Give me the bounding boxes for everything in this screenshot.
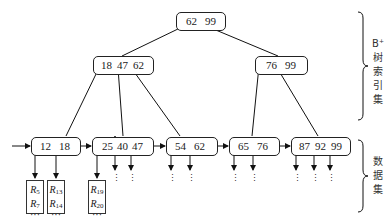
leaf-key: 76 bbox=[257, 138, 268, 155]
leaf-key: 62 bbox=[194, 138, 205, 155]
leaf-key: 25 bbox=[102, 138, 113, 155]
leaf-key: 87 bbox=[299, 138, 310, 155]
label-char: 树 bbox=[372, 51, 384, 65]
record-label: R bbox=[90, 218, 96, 220]
leaf-node: 54 62 bbox=[166, 137, 218, 156]
index-set-label: B+ 树 索 引 集 bbox=[372, 34, 384, 107]
vertical-ellipsis: ⋮ bbox=[128, 176, 134, 181]
root-key: 99 bbox=[205, 13, 216, 30]
root-key: 62 bbox=[186, 13, 197, 30]
leaf-key: 99 bbox=[331, 138, 342, 155]
internal-node-left: 18 47 62 bbox=[93, 56, 154, 75]
data-block: R5 R7 ··· R12 bbox=[26, 180, 44, 214]
vertical-ellipsis: ⋮ bbox=[250, 176, 256, 181]
record-label: R bbox=[28, 218, 34, 220]
leaf-node: 25 40 47 bbox=[92, 137, 154, 156]
vertical-ellipsis: ⋮ bbox=[311, 176, 317, 181]
record-subscript: 5 bbox=[36, 188, 40, 196]
label-char: B bbox=[372, 38, 379, 49]
leaf-key: 54 bbox=[175, 138, 186, 155]
root-node: 62 99 bbox=[176, 12, 226, 31]
vertical-ellipsis: ⋮ bbox=[168, 176, 174, 181]
vertical-ellipsis: ⋮ bbox=[112, 176, 118, 181]
vertical-ellipsis: ⋮ bbox=[293, 176, 299, 181]
leaf-key: 92 bbox=[315, 138, 326, 155]
leaf-key: 47 bbox=[132, 138, 143, 155]
leaf-key: 40 bbox=[117, 138, 128, 155]
leaf-key: 65 bbox=[238, 138, 249, 155]
internal-key: 18 bbox=[101, 57, 112, 74]
record-subscript: 13 bbox=[56, 188, 63, 196]
b-plus-tree-diagram: 62 99 18 47 62 76 99 12 18 25 40 47 54 6… bbox=[0, 0, 390, 220]
vertical-ellipsis: ⋮ bbox=[187, 176, 193, 181]
record-subscript: 19 bbox=[97, 188, 104, 196]
leaf-node: 12 18 bbox=[31, 137, 81, 156]
vertical-ellipsis: ⋮ bbox=[231, 176, 237, 181]
internal-key: 99 bbox=[285, 57, 296, 74]
leaf-node: 87 92 99 bbox=[291, 137, 351, 156]
label-char: 集 bbox=[372, 93, 384, 107]
label-char: 引 bbox=[372, 79, 384, 93]
label-char: 集 bbox=[372, 183, 384, 197]
internal-key: 62 bbox=[133, 57, 144, 74]
internal-node-right: 76 99 bbox=[255, 56, 308, 75]
record-label: R bbox=[49, 218, 55, 220]
vertical-ellipsis: ⋮ bbox=[327, 176, 333, 181]
data-block: R19 R20 ··· R25 bbox=[88, 180, 106, 214]
label-char: 数 bbox=[372, 155, 384, 169]
label-char: 据 bbox=[372, 169, 384, 183]
data-block: R13 R14 ··· R18 bbox=[47, 180, 65, 214]
leaf-node: 65 76 bbox=[229, 137, 280, 156]
internal-key: 76 bbox=[266, 57, 277, 74]
label-sup: + bbox=[379, 37, 384, 44]
leaf-key: 18 bbox=[59, 138, 70, 155]
data-set-label: 数 据 集 bbox=[372, 155, 384, 197]
label-char: 索 bbox=[372, 65, 384, 79]
leaf-key: 12 bbox=[40, 138, 51, 155]
internal-key: 47 bbox=[117, 57, 128, 74]
